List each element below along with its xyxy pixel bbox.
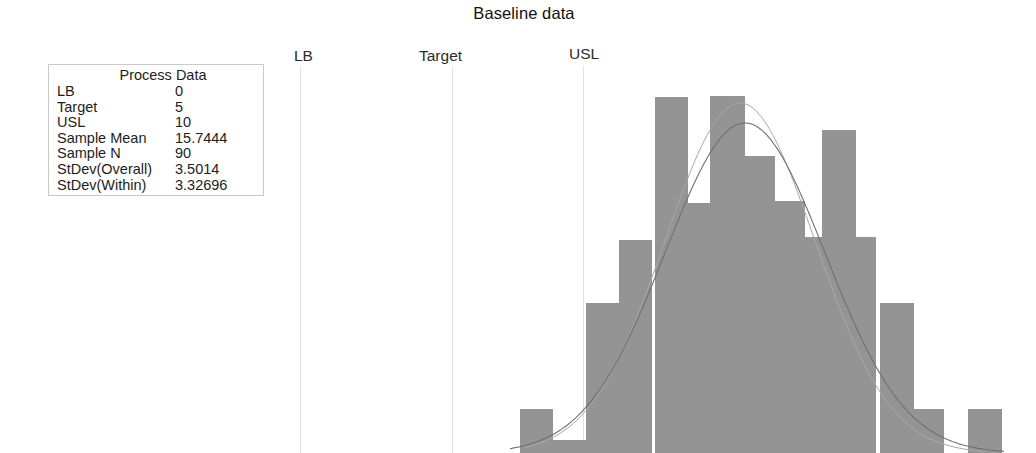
histogram-bar <box>710 96 745 453</box>
histogram-bar <box>775 201 805 453</box>
histogram-svg <box>0 0 1036 453</box>
process-capability-report: Baseline data LB Target USL Process Data… <box>0 0 1036 453</box>
histogram-bar <box>745 156 775 453</box>
histogram-bar <box>880 303 914 453</box>
histogram-bar <box>968 409 1002 453</box>
histogram-bar <box>655 97 688 453</box>
histogram-bar <box>914 409 944 453</box>
histogram-bar <box>688 203 710 453</box>
histogram-bar <box>520 409 553 453</box>
histogram-plot <box>0 0 1036 453</box>
histogram-bar <box>553 440 586 453</box>
histogram-bar <box>586 303 619 453</box>
histogram-bar <box>856 237 876 453</box>
histogram-bar <box>805 237 822 453</box>
histogram-bar <box>822 130 856 453</box>
